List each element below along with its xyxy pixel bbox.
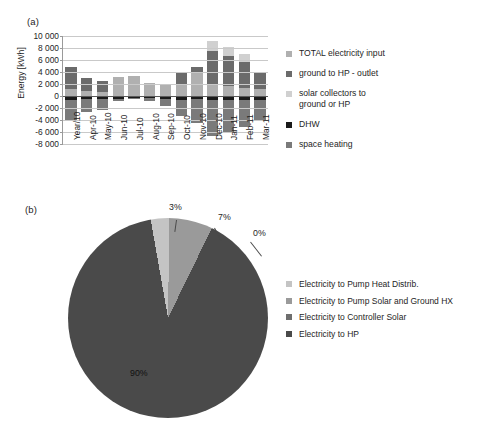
panel-a-label: (a) [27, 16, 39, 27]
legend-bar-chart: TOTAL electricity inputground to HP - ou… [286, 48, 496, 159]
gridline [63, 60, 268, 61]
bar-segment [176, 85, 187, 96]
bar-segment [207, 51, 218, 85]
legend-swatch-icon [286, 51, 292, 57]
bar-segment [65, 89, 76, 96]
y-axis-tick-mark [60, 120, 63, 121]
bar-segment [160, 99, 171, 107]
pie-slices [68, 218, 268, 418]
y-axis-tick-label: -4 000 [35, 115, 59, 125]
pie-percent-label: 7% [218, 212, 231, 222]
x-axis-tick-label: Jan-11 [229, 115, 239, 140]
bar-segment [207, 85, 218, 96]
x-axis-tick-label: Oct-10 [182, 115, 192, 140]
x-axis-tick-label: Feb-11 [245, 114, 255, 140]
legend-swatch-icon [286, 331, 292, 337]
legend-label: ground to HP - outlet [299, 68, 378, 79]
x-axis-tick-label: Jun-10 [119, 115, 129, 140]
bar-segment [239, 88, 250, 96]
legend-swatch-icon [286, 281, 292, 287]
legend-item: DHW [286, 119, 496, 130]
bar-segment [128, 98, 139, 99]
zero-line [63, 96, 268, 97]
legend-item: Electricity to HP [286, 329, 501, 339]
y-axis-tick-mark [60, 132, 63, 133]
gridline [63, 36, 268, 37]
bar-segment [97, 81, 108, 92]
y-axis-tick-mark [60, 72, 63, 73]
bar-segment [81, 99, 92, 112]
legend-swatch-icon [286, 314, 292, 320]
x-axis-tick-label: Mar-11 [261, 114, 271, 140]
legend-label: space heating [299, 139, 353, 150]
bar-chart-energy: Energy [kWh] 10 0008 0006 0004 0002 0000… [0, 28, 300, 188]
x-axis-tick-label: Apr-10 [88, 115, 98, 140]
bar-segment [128, 76, 139, 96]
legend-item: Electricity to Controller Solar [286, 312, 501, 322]
y-axis-tick-label: -8 000 [35, 139, 59, 149]
bar-segment [144, 83, 155, 96]
y-axis-tick-label: -2 000 [35, 103, 59, 113]
gridline [63, 48, 268, 49]
legend-pie-chart: Electricity to Pump Heat Distrib.Electri… [286, 279, 501, 345]
y-axis-tick-mark [60, 36, 63, 37]
pie-percent-label: 90% [130, 368, 148, 378]
bar-segment [113, 99, 124, 101]
legend-swatch-icon [286, 142, 292, 148]
pie-percent-label: 3% [169, 202, 182, 212]
x-axis-tick-label: Aug-10 [151, 113, 161, 140]
bar-segment [254, 89, 265, 96]
legend-item: space heating [286, 139, 496, 150]
legend-swatch-icon [286, 298, 292, 304]
pie-area: 3%7%0%90% [68, 218, 268, 418]
y-axis-tick-label: 2 000 [38, 79, 59, 89]
bar-segment [65, 67, 76, 90]
legend-swatch-icon [286, 91, 292, 97]
legend-item: TOTAL electricity input [286, 48, 496, 59]
bar-segment [207, 41, 218, 52]
bar-segment [223, 86, 234, 96]
x-axis-tick-label: Jul-10 [135, 117, 145, 140]
y-axis-tick-mark [60, 60, 63, 61]
legend-item: ground to HP - outlet [286, 68, 496, 79]
y-axis-tick-mark [60, 96, 63, 97]
legend-item: Electricity to Pump Solar and Ground HX [286, 296, 501, 306]
y-axis-tick-mark [60, 84, 63, 85]
legend-item: Electricity to Pump Heat Distrib. [286, 279, 501, 289]
gridline [63, 84, 268, 85]
x-axis-tick-label: Sep-10 [166, 113, 176, 140]
figure-container: (a) (b) Energy [kWh] 10 0008 0006 0004 0… [0, 0, 502, 438]
y-axis-tick-label: 10 000 [33, 31, 59, 41]
legend-label: solar collectors toground or HP [299, 88, 366, 109]
legend-label: Electricity to Pump Solar and Ground HX [299, 296, 453, 306]
gridline [63, 72, 268, 73]
legend-label: DHW [299, 119, 320, 130]
legend-label: Electricity to Controller Solar [299, 312, 406, 322]
x-axis-tick-label: May-10 [103, 112, 113, 140]
y-axis-tick-mark [60, 48, 63, 49]
x-axis-tick-label: Dec-10 [214, 113, 224, 140]
bar-segment [144, 98, 155, 101]
y-axis-tick-label: -6 000 [35, 127, 59, 137]
bar-segment [176, 73, 187, 85]
y-axis-tick-label: 0 [54, 91, 59, 101]
y-axis-tick-mark [60, 144, 63, 145]
legend-swatch-icon [286, 71, 292, 77]
bar-segment [113, 77, 124, 97]
pie-label-leader-line [250, 242, 262, 257]
gridline [63, 144, 268, 145]
x-axis-tick-label: Year/10 [72, 112, 82, 140]
y-axis-tick-mark [60, 108, 63, 109]
legend-item: solar collectors toground or HP [286, 88, 496, 109]
legend-swatch-icon [286, 122, 292, 128]
legend-label: TOTAL electricity input [299, 48, 385, 59]
y-axis-title: Energy [kWh] [16, 18, 26, 128]
pie-percent-label: 0% [253, 228, 266, 238]
bar-segment [254, 72, 265, 89]
x-axis-tick-label: Nov-10 [198, 113, 208, 140]
legend-label: Electricity to HP [299, 329, 359, 339]
y-axis-tick-label: 8 000 [38, 43, 59, 53]
bar-segment [160, 85, 171, 96]
gridline [63, 108, 268, 109]
y-axis-tick-label: 6 000 [38, 55, 59, 65]
